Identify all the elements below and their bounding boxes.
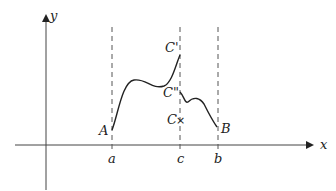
x-axis-label: x	[320, 137, 328, 152]
tick-label-c: c	[177, 151, 185, 166]
point-label-C-prime: C'	[165, 40, 179, 55]
cross-marker-icon: ×	[176, 114, 185, 127]
y-axis-label: y	[49, 8, 58, 23]
point-label-A: A	[98, 123, 108, 138]
tick-label-b: b	[214, 151, 222, 166]
curve-right-segment	[180, 92, 217, 127]
function-discontinuity-diagram: x y a c b A C' C" C B ×	[0, 0, 336, 191]
diagram-canvas: x y a c b A C' C" C B ×	[0, 0, 336, 191]
point-label-B: B	[220, 121, 231, 136]
tick-label-a: a	[108, 151, 116, 166]
point-label-C-double-prime: C"	[163, 85, 179, 100]
